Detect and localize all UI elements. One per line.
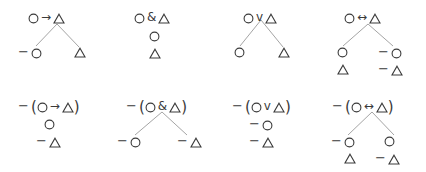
triangle-icon xyxy=(344,153,356,164)
triangle-icon xyxy=(149,48,161,59)
negation-sign: − xyxy=(117,134,130,147)
branch-right-node-1: − xyxy=(378,45,402,59)
negation-sign: − xyxy=(126,99,139,112)
circle-icon xyxy=(130,137,141,148)
rule-root: → xyxy=(28,11,65,24)
circle-icon xyxy=(243,13,254,24)
branch-right-node-1 xyxy=(74,45,86,58)
negation-sign: − xyxy=(249,134,262,147)
operator-biconditional: ↔ xyxy=(355,11,369,23)
branch-right-node-2: − xyxy=(375,151,400,165)
triangle-icon xyxy=(391,65,403,76)
rule-negated-conjunction: −( & ) − − xyxy=(107,88,217,172)
rule-root: & xyxy=(134,11,170,24)
branch-right-node-1 xyxy=(384,134,395,147)
paren-close: ) xyxy=(285,100,291,115)
triangle-icon xyxy=(53,13,65,24)
branch-left-node-1 xyxy=(234,45,245,58)
triangle-icon xyxy=(337,64,349,75)
triangle-icon xyxy=(376,102,388,113)
circle-icon xyxy=(37,102,48,113)
operator-conjunction: & xyxy=(156,100,169,112)
triangle-icon xyxy=(388,154,400,165)
circle-icon xyxy=(251,102,262,113)
rule-root: −( v ) xyxy=(232,99,291,115)
triangle-icon xyxy=(49,137,61,148)
rule-disjunction: v xyxy=(213,0,323,86)
negation-sign: − xyxy=(378,62,391,75)
negation-sign: − xyxy=(375,151,388,164)
operator-disjunction: v xyxy=(254,11,265,23)
triangle-icon xyxy=(169,102,181,113)
circle-icon xyxy=(384,136,395,147)
negation-sign: − xyxy=(18,45,31,58)
circle-icon xyxy=(262,120,273,131)
circle-icon xyxy=(234,47,245,58)
stack-node-2: − xyxy=(249,134,274,148)
rule-root: v xyxy=(243,11,277,24)
branch-right-node-2: − xyxy=(378,62,403,76)
rule-root: −( → ) xyxy=(18,99,80,115)
stack-node-1 xyxy=(149,29,160,42)
circle-icon xyxy=(344,137,355,148)
branch-left-node-1: − xyxy=(331,134,355,148)
operator-biconditional: ↔ xyxy=(362,100,376,112)
triangle-icon xyxy=(273,102,285,113)
triangle-icon xyxy=(74,47,86,58)
branch-left-node-1: − xyxy=(18,45,42,59)
negation-sign: − xyxy=(36,134,49,147)
rule-negated-disjunction: −( v ) − − xyxy=(213,88,323,172)
triangle-icon xyxy=(265,13,277,24)
branch-right-node-1 xyxy=(278,45,290,58)
circle-icon xyxy=(391,48,402,59)
paren-close: ) xyxy=(74,100,80,115)
branch-left-node-2 xyxy=(344,151,356,164)
circle-icon xyxy=(134,13,145,24)
triangle-icon xyxy=(278,47,290,58)
rule-root: −( ↔ ) xyxy=(332,99,394,115)
rule-root: ↔ xyxy=(344,11,381,24)
operator-conjunction: & xyxy=(145,11,158,23)
circle-icon xyxy=(44,119,55,130)
rule-negated-biconditional: −( ↔ ) − − xyxy=(318,88,426,172)
circle-icon xyxy=(28,13,39,24)
circle-icon xyxy=(145,102,156,113)
truth-tree-rules-diagram: → − & xyxy=(0,0,426,172)
rule-root: −( & ) xyxy=(126,99,187,115)
rule-conjunction: & xyxy=(107,0,217,86)
paren-close: ) xyxy=(388,100,394,115)
circle-icon xyxy=(344,13,355,24)
triangle-icon xyxy=(62,102,74,113)
stack-node-2 xyxy=(149,46,161,59)
negation-sign: − xyxy=(177,134,190,147)
triangle-icon xyxy=(262,137,274,148)
operator-conditional: → xyxy=(39,11,53,23)
triangle-icon xyxy=(190,137,202,148)
circle-icon xyxy=(351,102,362,113)
triangle-icon xyxy=(369,13,381,24)
rule-negated-conditional: −( → ) − xyxy=(0,88,110,172)
circle-icon xyxy=(31,48,42,59)
circle-icon xyxy=(149,31,160,42)
operator-disjunction: v xyxy=(262,100,273,112)
branch-left-node-2 xyxy=(337,62,349,75)
branch-left-node-1: − xyxy=(117,134,141,148)
branch-left-node-1 xyxy=(337,45,348,58)
stack-node-1: − xyxy=(249,117,273,131)
rule-conditional: → − xyxy=(0,0,110,86)
operator-conditional: → xyxy=(48,100,62,112)
triangle-icon xyxy=(158,13,170,24)
stack-node-1 xyxy=(44,117,55,130)
negation-sign: − xyxy=(249,117,262,130)
negation-sign: − xyxy=(331,134,344,147)
negation-sign: − xyxy=(332,99,345,112)
stack-node-2: − xyxy=(36,134,61,148)
negation-sign: − xyxy=(232,99,245,112)
paren-close: ) xyxy=(181,100,187,115)
negation-sign: − xyxy=(18,99,31,112)
branch-right-node-1: − xyxy=(177,134,202,148)
circle-icon xyxy=(337,47,348,58)
rule-biconditional: ↔ − − xyxy=(318,0,426,86)
negation-sign: − xyxy=(378,45,391,58)
